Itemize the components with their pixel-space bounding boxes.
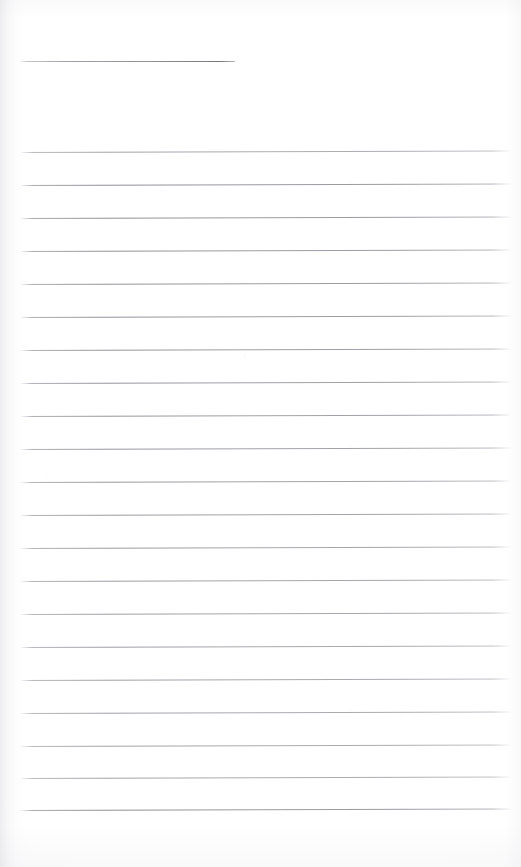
page-content-area[interactable] [20, 140, 512, 830]
notepad-page [0, 0, 521, 867]
